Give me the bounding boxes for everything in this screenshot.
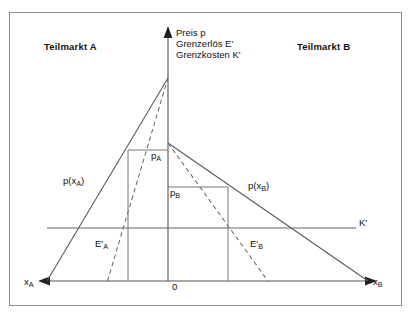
quantity-axis-b-label-sub: B — [378, 280, 383, 289]
marginal-revenue-a-label-sub: A — [103, 242, 108, 251]
marginal-revenue-b-label: E'B — [250, 239, 263, 250]
marginal-revenue-curve-b — [168, 143, 268, 281]
price-axis-caption-line-3: Grenzkosten K' — [176, 50, 241, 61]
demand-curve-a-label-sub: A — [76, 179, 81, 188]
demand-curve-b-label-main: p(x — [248, 180, 261, 191]
marginal-revenue-b-label-sub: B — [258, 242, 263, 251]
figure-container: Teilmarkt A Teilmarkt B Preis p Grenzerl… — [0, 0, 415, 319]
demand-curve-a-label-close: ) — [81, 175, 84, 186]
demand-curve-b-label-close: ) — [266, 180, 269, 191]
demand-curve-b-label: p(xB) — [248, 181, 269, 192]
demand-curve-a-label-main: p(x — [63, 175, 76, 186]
demand-curve-b — [168, 143, 368, 281]
quantity-axis-a-label: xA — [24, 277, 34, 288]
marginal-revenue-b-label-main: E' — [250, 238, 258, 249]
marginal-revenue-curve-a — [108, 78, 169, 281]
price-axis-caption: Preis p Grenzerlös E' Grenzkosten K' — [176, 28, 241, 61]
marginal-revenue-a-label-main: E' — [95, 238, 103, 249]
market-b-title: Teilmarkt B — [297, 42, 350, 53]
origin-label: 0 — [172, 282, 177, 293]
demand-curve-a-label: p(xA) — [63, 176, 84, 187]
price-b-label-sub: B — [175, 191, 180, 200]
marginal-cost-label: K' — [359, 218, 367, 229]
quantity-axis-a-label-sub: A — [29, 280, 34, 289]
quantity-axis-b-label: xB — [373, 277, 383, 288]
marginal-revenue-a-label: E'A — [95, 239, 108, 250]
market-a-title: Teilmarkt A — [44, 42, 97, 53]
quantity-axis-left-arrow — [38, 277, 50, 286]
price-axis-arrow — [164, 26, 173, 38]
price-b-label: pB — [170, 188, 180, 199]
price-a-label-sub: A — [156, 154, 161, 163]
price-a-label: pA — [151, 151, 161, 162]
demand-curve-b-label-sub: B — [261, 184, 266, 193]
